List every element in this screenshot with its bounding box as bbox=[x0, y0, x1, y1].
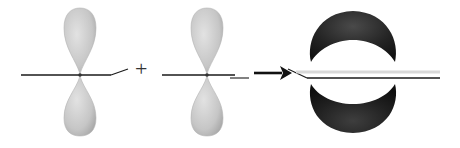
orbital-diagram bbox=[0, 0, 460, 148]
nucleus-dot bbox=[78, 73, 82, 77]
nucleus-dot bbox=[205, 73, 209, 77]
orbital-lobe-top bbox=[191, 8, 223, 74]
p-orbital-left bbox=[21, 8, 128, 136]
p-orbital-right bbox=[162, 8, 249, 136]
pi-lobe-top bbox=[310, 11, 396, 62]
plus-operator: + bbox=[135, 58, 147, 80]
bond-line-left-kink bbox=[111, 69, 128, 75]
reaction-arrow bbox=[254, 66, 292, 80]
orbital-lobe-top bbox=[64, 8, 96, 74]
orbital-lobe-bottom bbox=[191, 76, 223, 136]
pi-lobe-bottom bbox=[310, 84, 396, 133]
pi-bond bbox=[288, 11, 440, 133]
orbital-lobe-bottom bbox=[64, 76, 96, 136]
